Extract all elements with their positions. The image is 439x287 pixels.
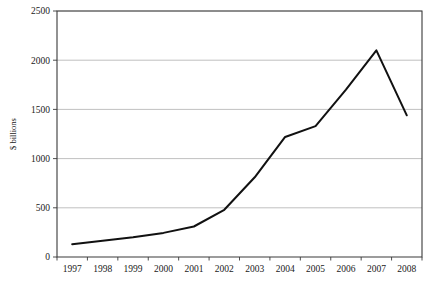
x-tick-label-1997: 1997 — [63, 264, 82, 274]
x-tick-label-2006: 2006 — [336, 264, 355, 274]
chart-background — [0, 0, 439, 287]
x-tick-label-2004: 2004 — [276, 264, 295, 274]
x-tick-label-2001: 2001 — [184, 264, 203, 274]
x-tick-label-2008: 2008 — [397, 264, 416, 274]
x-tick-label-1999: 1999 — [124, 264, 143, 274]
chart-container: 05001000150020002500 1997199819992000200… — [0, 0, 439, 287]
x-tick-label-1998: 1998 — [93, 264, 112, 274]
y-tick-label-500: 500 — [36, 203, 51, 213]
y-tick-label-2500: 2500 — [31, 6, 50, 16]
y-axis-title-label: $ billions — [8, 118, 18, 150]
y-tick-label-2000: 2000 — [31, 56, 50, 66]
y-tick-label-1500: 1500 — [31, 105, 50, 115]
x-tick-label-2007: 2007 — [367, 264, 386, 274]
y-tick-label-0: 0 — [45, 252, 50, 262]
y-axis-title: $ billions — [8, 118, 18, 150]
x-tick-label-2003: 2003 — [245, 264, 264, 274]
x-tick-label-2000: 2000 — [154, 264, 173, 274]
x-tick-label-2002: 2002 — [215, 264, 234, 274]
x-tick-label-2005: 2005 — [306, 264, 325, 274]
y-tick-label-1000: 1000 — [31, 154, 50, 164]
line-chart: 05001000150020002500 1997199819992000200… — [0, 0, 439, 287]
